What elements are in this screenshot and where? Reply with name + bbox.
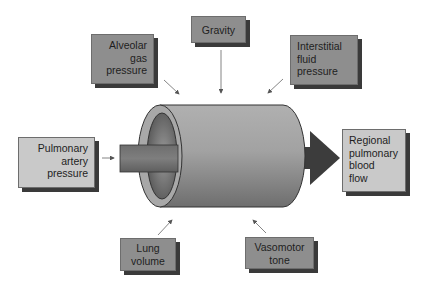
- node-text: flow: [349, 172, 399, 185]
- arrow-lung-volume-icon: [158, 220, 172, 235]
- node-regional-pulmonary-blood-flow: Regional pulmonary blood flow: [342, 129, 406, 192]
- node-interstitial-fluid-pressure: Interstitial fluid pressure: [290, 35, 358, 85]
- node-text: pressure: [25, 167, 88, 180]
- arrow-vasomotor-icon: [253, 220, 266, 233]
- node-text: Lung: [127, 242, 169, 255]
- node-text: fluid: [297, 53, 351, 66]
- node-text: gas: [98, 52, 147, 65]
- node-text: Vasomotor: [252, 241, 307, 254]
- node-text: Interstitial: [297, 40, 351, 53]
- vessel-cylinder-icon: [120, 105, 305, 207]
- node-pulmonary-artery-pressure: Pulmonary artery pressure: [18, 137, 95, 188]
- node-text: Regional: [349, 134, 399, 147]
- node-text: Gravity: [198, 24, 239, 37]
- node-text: artery: [25, 155, 88, 168]
- node-text: pulmonary: [349, 147, 399, 160]
- node-lung-volume: Lung volume: [120, 238, 176, 271]
- arrow-interstitial-icon: [268, 79, 283, 93]
- arrow-alveolar-icon: [164, 80, 179, 94]
- node-text: pressure: [297, 65, 351, 78]
- node-text: volume: [127, 255, 169, 268]
- node-text: blood: [349, 159, 399, 172]
- node-text: Alveolar: [98, 39, 147, 52]
- node-text: tone: [252, 254, 307, 267]
- node-vasomotor-tone: Vasomotor tone: [245, 237, 314, 269]
- node-text: pressure: [98, 64, 147, 77]
- node-gravity: Gravity: [191, 16, 246, 43]
- node-alveolar-gas-pressure: Alveolar gas pressure: [91, 34, 154, 84]
- node-text: Pulmonary: [25, 142, 88, 155]
